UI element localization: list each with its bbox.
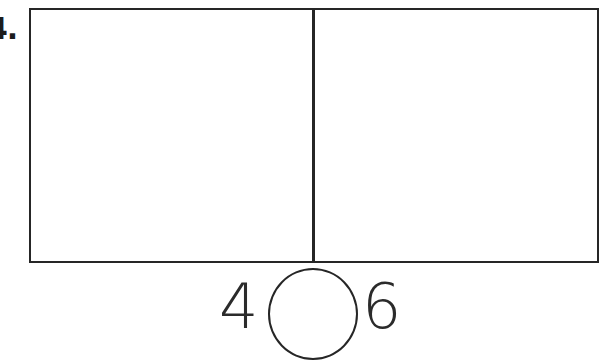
right-operand: 6 <box>362 262 401 352</box>
problem-number: 4. <box>0 14 17 44</box>
comparison-expression: 4 6 <box>0 262 587 352</box>
left-operand: 4 <box>219 262 258 352</box>
bar-model-divider-line <box>312 10 315 261</box>
operator-answer-circle[interactable] <box>268 268 358 360</box>
bar-model-rectangle <box>29 8 599 263</box>
